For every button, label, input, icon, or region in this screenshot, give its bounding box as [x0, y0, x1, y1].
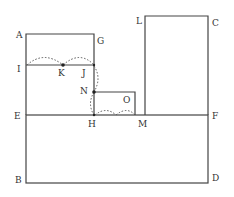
point-H	[93, 114, 95, 116]
label-F: F	[212, 111, 218, 121]
arc-KJ	[63, 58, 94, 66]
arc-H-mid	[95, 111, 116, 116]
label-E: E	[14, 111, 21, 121]
label-D: D	[212, 173, 219, 183]
rectangle-LCF	[145, 16, 208, 115]
point-J	[93, 64, 95, 66]
arc-mid-M	[116, 111, 135, 116]
point-N	[92, 90, 96, 94]
label-N: N	[80, 86, 88, 96]
point-K	[61, 63, 65, 67]
label-K: K	[58, 68, 65, 78]
arc-IK	[27, 58, 63, 66]
label-I: I	[17, 64, 21, 74]
label-C: C	[212, 18, 219, 28]
label-B: B	[15, 175, 22, 185]
geometry-diagram: A G I K J N O E H M F L C B D	[0, 0, 234, 197]
label-G: G	[97, 36, 104, 46]
label-M: M	[138, 119, 147, 129]
label-L: L	[136, 16, 142, 26]
label-O: O	[123, 95, 130, 105]
rectangle-EFDB	[26, 115, 208, 183]
label-H: H	[88, 119, 96, 129]
label-J: J	[81, 68, 86, 78]
label-A: A	[15, 30, 23, 40]
